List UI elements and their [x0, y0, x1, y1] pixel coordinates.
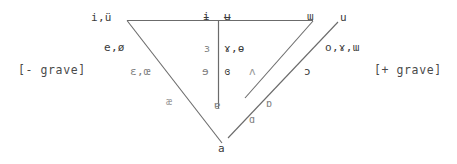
triangle-lines	[0, 0, 457, 164]
vowel-front-low: æ	[166, 96, 172, 107]
vowel-central-low-mid-right: ɞ	[224, 66, 231, 77]
vowel-central-high-left: ɨ	[203, 11, 210, 22]
vowel-central-low-mid-left: ɘ	[202, 66, 209, 77]
vowel-back-high-outer: u	[340, 12, 347, 23]
label-plus-grave: [+ grave]	[374, 64, 442, 76]
vowel-central-open: ɐ	[214, 100, 221, 111]
vowel-back-mid-low-outer: ɔ	[304, 66, 311, 77]
vowel-central-mid-left: ɜ	[204, 43, 210, 54]
vowel-central-high-right: ʉ	[224, 11, 231, 22]
vowel-back-high-inner: ɯ	[307, 11, 314, 22]
vowel-apex-low: a	[218, 143, 225, 154]
vowel-central-mid-right: ɤ,ɵ	[224, 43, 245, 54]
vowel-back-lowest-inner: ɑ	[249, 114, 255, 125]
vowel-back-mid-high-outer: o,ɤ,ɯ	[325, 42, 360, 53]
vowel-triangle-diagram: [- grave] [+ grave] i,ü e,ø ε,œ æ ɨ ɜ ɘ …	[0, 0, 457, 164]
vowel-front-mid-high: e,ø	[104, 42, 125, 53]
vowel-front-mid-low: ε,œ	[130, 66, 151, 77]
vowel-back-mid-inner: ʌ	[249, 66, 256, 77]
vowel-front-high: i,ü	[91, 12, 112, 23]
label-minus-grave: [- grave]	[18, 64, 86, 76]
vowel-back-low-inner: ɒ	[266, 98, 272, 109]
